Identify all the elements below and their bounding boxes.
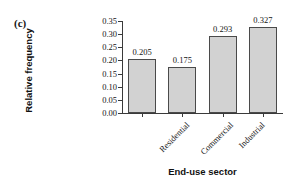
bar-value-label: 0.175 bbox=[173, 55, 192, 65]
y-axis-line bbox=[122, 21, 123, 113]
y-tick-label: 0.35 bbox=[102, 16, 117, 26]
bar-value-label: 0.205 bbox=[133, 47, 152, 57]
bar bbox=[168, 67, 196, 113]
x-tick-mark bbox=[223, 113, 224, 117]
y-tick-label: 0.25 bbox=[102, 42, 117, 52]
y-tick-label: 0.10 bbox=[102, 82, 117, 92]
bar-value-label: 0.293 bbox=[213, 24, 232, 34]
x-tick-mark bbox=[142, 113, 143, 117]
y-tick-mark bbox=[118, 113, 122, 114]
bar bbox=[249, 27, 277, 113]
x-tick-mark bbox=[182, 113, 183, 117]
bar-value-label: 0.327 bbox=[253, 15, 272, 25]
y-tick-label: 0.15 bbox=[102, 69, 117, 79]
x-tick-label: Transportation bbox=[281, 120, 283, 162]
y-tick-mark bbox=[118, 21, 122, 22]
x-tick-label: Residential bbox=[157, 120, 191, 154]
y-tick-label: 0.00 bbox=[102, 108, 117, 118]
x-axis-title: End-use sector bbox=[122, 166, 283, 177]
y-axis-title: Relative frequency bbox=[23, 21, 34, 121]
x-tick-mark bbox=[263, 113, 264, 117]
bar bbox=[128, 59, 156, 113]
y-tick-mark bbox=[118, 74, 122, 75]
plot-area: 0.000.050.100.150.200.250.300.35 0.2050.… bbox=[122, 21, 283, 113]
y-tick-mark bbox=[118, 34, 122, 35]
y-tick-mark bbox=[118, 87, 122, 88]
y-tick-label: 0.05 bbox=[102, 95, 117, 105]
y-tick-mark bbox=[118, 47, 122, 48]
y-tick-label: 0.30 bbox=[102, 29, 117, 39]
x-axis-line bbox=[122, 113, 283, 114]
x-tick-label: Industrial bbox=[236, 120, 266, 150]
y-tick-mark bbox=[118, 60, 122, 61]
x-tick-label: Commercial bbox=[199, 120, 236, 157]
figure-panel-c: (c) Relative frequency 0.000.050.100.150… bbox=[0, 0, 283, 186]
bar bbox=[209, 36, 237, 113]
y-tick-label: 0.20 bbox=[102, 55, 117, 65]
y-tick-mark bbox=[118, 100, 122, 101]
